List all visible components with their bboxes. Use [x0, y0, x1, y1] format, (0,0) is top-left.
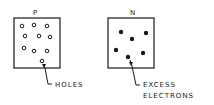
arrowhead-icon — [129, 62, 133, 66]
hole-icon — [20, 24, 24, 28]
electron-icon — [130, 37, 134, 41]
holes — [20, 23, 52, 63]
hole-icon — [45, 24, 49, 28]
hole-icon — [40, 59, 44, 63]
n-region-box — [108, 18, 154, 68]
electrons-label: ELECTRONS — [143, 92, 194, 100]
holes-label: HOLES — [55, 81, 84, 89]
hole-icon — [48, 35, 52, 39]
hole-icon — [23, 34, 27, 38]
p-region-box — [14, 18, 60, 68]
hole-icon — [32, 23, 36, 27]
hole-icon — [22, 46, 26, 50]
electron-icon — [114, 48, 118, 52]
p-region: P HOLES — [14, 9, 84, 89]
hole-icon — [45, 49, 49, 53]
hole-icon — [32, 49, 36, 53]
hole-icon — [37, 34, 41, 38]
electrons — [114, 30, 148, 59]
excess-label: EXCESS — [143, 81, 176, 89]
semiconductor-diagram: P HOLES N — [0, 0, 214, 105]
electron-icon — [119, 30, 123, 34]
n-region-title: N — [130, 9, 135, 17]
electron-icon — [141, 51, 145, 55]
electron-icon — [126, 55, 130, 59]
n-region: N EXCESS ELECTRONS — [108, 9, 194, 100]
electron-icon — [144, 31, 148, 35]
p-region-title: P — [33, 9, 37, 17]
